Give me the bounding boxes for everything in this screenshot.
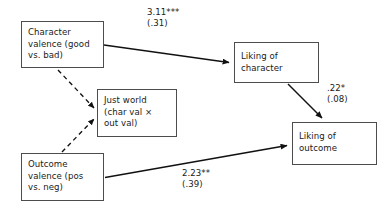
- node-character-valence[interactable]: Character valence (good vs. bad): [21, 21, 104, 68]
- edge-label-liking-character-to-liking-outcome: .22* (.08): [327, 83, 348, 106]
- edge-liking-character-to-liking-outcome: [288, 84, 322, 118]
- edge-character-to-liking-character: [104, 45, 229, 63]
- edge-label-character-to-liking-character: 3.11*** (.31): [147, 7, 179, 30]
- edge-character-to-just-world: [58, 70, 94, 108]
- node-liking-of-outcome[interactable]: Liking of outcome: [292, 122, 377, 165]
- node-outcome-valence[interactable]: Outcome valence (pos vs. neg): [21, 153, 104, 201]
- node-just-world[interactable]: Just world (char val × out val): [97, 89, 177, 137]
- edge-label-outcome-to-liking-outcome: 2.23** (.39): [182, 168, 210, 191]
- path-diagram: Character valence (good vs. bad) Just wo…: [0, 0, 391, 210]
- edge-outcome-to-just-world: [62, 119, 94, 152]
- node-liking-of-character[interactable]: Liking of character: [234, 42, 319, 83]
